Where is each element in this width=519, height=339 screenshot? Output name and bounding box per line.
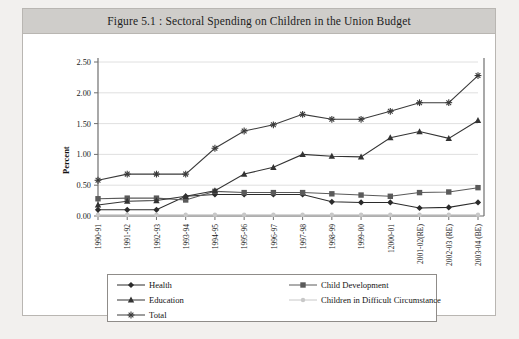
page-title: Figure 5.1 : Sectoral Spending on Childr… [107,15,410,27]
svg-text:2.50: 2.50 [76,58,91,67]
svg-text:1998-99: 1998-99 [328,224,337,250]
svg-text:1993-94: 1993-94 [182,224,191,250]
x-axis-ticks: 1990-911991-921992-931993-941994-951995-… [94,216,483,266]
svg-text:1999-00: 1999-00 [357,224,366,250]
svg-text:0.00: 0.00 [76,212,91,221]
svg-text:1990-91: 1990-91 [94,224,103,250]
legend-item-label: Children in Difficult Circumstance [321,295,441,305]
legend-item-label: Education [149,295,184,305]
svg-text:1996-97: 1996-97 [270,224,279,250]
legend-item-label: Total [149,310,167,320]
svg-text:1991-92: 1991-92 [123,224,132,250]
figure-title-bar: Figure 5.1 : Sectoral Spending on Childr… [23,9,495,34]
svg-text:1992-93: 1992-93 [153,224,162,250]
svg-text:1995-96: 1995-96 [240,224,249,250]
y-axis-ticks: 0.000.501.001.502.002.50 [76,58,98,221]
square-marker-icon [288,280,318,290]
legend-item[interactable]: Education [116,292,288,307]
svg-text:2001-02(RE): 2001-02(RE) [416,224,425,265]
legend-item[interactable]: Total [116,307,288,322]
legend-item-label: Child Development [321,280,389,290]
chart-body: Percent 0.000.501.001.502.002.50 1990-91… [23,34,495,315]
triangle-marker-icon [116,295,146,305]
asterisk-marker-icon [116,310,146,320]
svg-text:1.00: 1.00 [76,150,91,159]
legend-item[interactable]: Child Development [288,277,441,292]
svg-text:1.50: 1.50 [76,120,91,129]
svg-text:12000-01: 12000-01 [387,224,396,253]
circle-marker-icon [288,295,318,305]
legend-item[interactable]: Health [116,277,288,292]
chart-legend: HealthChild DevelopmentEducationChildren… [107,274,437,322]
legend-grid: HealthChild DevelopmentEducationChildren… [108,275,436,321]
svg-text:2003-04 (BE): 2003-04 (BE) [474,224,483,266]
svg-text:2.00: 2.00 [76,89,91,98]
svg-text:0.50: 0.50 [76,181,91,190]
svg-text:2002-03 (RE): 2002-03 (RE) [445,224,454,266]
svg-text:1997-98: 1997-98 [299,224,308,250]
legend-item-label: Health [149,280,172,290]
legend-item[interactable]: Children in Difficult Circumstance [288,292,441,307]
figure-page: Figure 5.1 : Sectoral Spending on Childr… [0,0,519,339]
diamond-marker-icon [116,280,146,290]
svg-text:1994-95: 1994-95 [211,224,220,250]
data-series-group [95,72,482,217]
figure-frame: Figure 5.1 : Sectoral Spending on Childr… [22,8,496,316]
